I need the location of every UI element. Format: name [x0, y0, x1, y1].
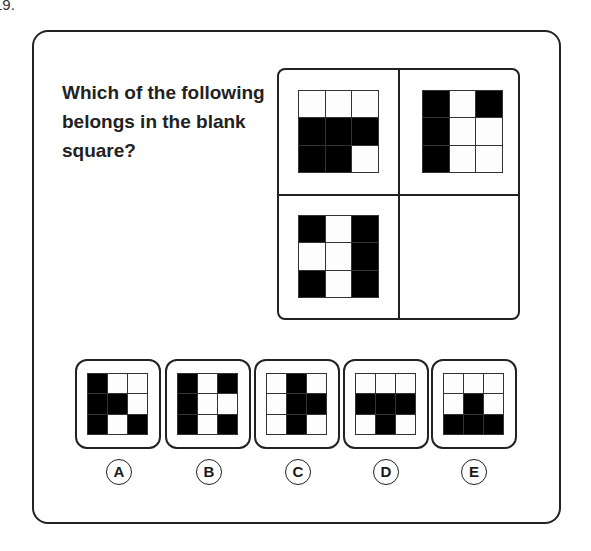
grid-square — [444, 374, 463, 393]
grid-square — [476, 118, 502, 144]
grid-square — [376, 394, 395, 413]
grid-square — [299, 118, 325, 144]
grid-square — [267, 394, 286, 413]
grid-square — [88, 415, 107, 434]
grid-square — [108, 415, 127, 434]
grid-square — [218, 415, 237, 434]
grid-square — [178, 415, 197, 434]
grid-square — [450, 91, 476, 117]
option-c[interactable] — [254, 359, 340, 449]
option-c-pattern — [266, 373, 327, 435]
grid-square — [287, 394, 306, 413]
grid-square — [198, 374, 217, 393]
grid-square — [299, 271, 325, 297]
grid-square — [198, 415, 217, 434]
grid-square — [444, 394, 463, 413]
grid-square — [396, 394, 415, 413]
grid-square — [376, 415, 395, 434]
grid-square — [326, 243, 352, 269]
matrix-cell-bottom-left — [298, 215, 379, 298]
matrix-cell-blank — [400, 196, 520, 320]
grid-square — [267, 415, 286, 434]
grid-square — [484, 415, 503, 434]
grid-square — [450, 118, 476, 144]
grid-square — [423, 146, 449, 172]
grid-square — [352, 118, 378, 144]
grid-square — [356, 394, 375, 413]
grid-square — [396, 374, 415, 393]
grid-square — [326, 216, 352, 242]
grid-square — [484, 394, 503, 413]
grid-square — [464, 374, 483, 393]
grid-square — [396, 415, 415, 434]
grid-square — [299, 243, 325, 269]
option-e-label[interactable]: E — [461, 459, 487, 485]
grid-square — [267, 374, 286, 393]
question-text: Which of the following belongs in the bl… — [62, 78, 272, 165]
matrix-cell-top-left — [298, 90, 379, 173]
option-d-label[interactable]: D — [373, 459, 399, 485]
option-b[interactable] — [165, 359, 251, 449]
grid-square — [307, 394, 326, 413]
option-b-label[interactable]: B — [196, 459, 222, 485]
grid-square — [128, 415, 147, 434]
grid-square — [128, 394, 147, 413]
option-d-pattern — [355, 373, 416, 435]
grid-square — [444, 415, 463, 434]
grid-square — [299, 91, 325, 117]
grid-square — [287, 415, 306, 434]
grid-square — [376, 374, 395, 393]
grid-square — [198, 394, 217, 413]
option-c-label[interactable]: C — [285, 459, 311, 485]
grid-square — [218, 394, 237, 413]
grid-square — [326, 146, 352, 172]
grid-square — [352, 91, 378, 117]
grid-square — [423, 118, 449, 144]
grid-square — [464, 394, 483, 413]
grid-square — [88, 394, 107, 413]
grid-square — [476, 146, 502, 172]
grid-square — [326, 91, 352, 117]
grid-square — [88, 374, 107, 393]
grid-square — [287, 374, 306, 393]
grid-square — [108, 394, 127, 413]
grid-square — [352, 243, 378, 269]
grid-square — [326, 118, 352, 144]
question-number: 19. — [0, 0, 15, 13]
grid-square — [326, 271, 352, 297]
grid-square — [484, 374, 503, 393]
grid-square — [356, 374, 375, 393]
grid-square — [178, 374, 197, 393]
matrix-cell-top-right — [422, 90, 503, 173]
grid-square — [464, 415, 483, 434]
grid-square — [450, 146, 476, 172]
grid-square — [423, 91, 449, 117]
grid-square — [356, 415, 375, 434]
grid-square — [307, 415, 326, 434]
grid-square — [307, 374, 326, 393]
grid-square — [108, 374, 127, 393]
grid-square — [299, 146, 325, 172]
option-a-pattern — [87, 373, 148, 435]
option-e[interactable] — [431, 359, 517, 449]
grid-square — [128, 374, 147, 393]
option-e-pattern — [443, 373, 504, 435]
option-a-label[interactable]: A — [106, 459, 132, 485]
grid-square — [352, 146, 378, 172]
grid-square — [352, 271, 378, 297]
grid-square — [352, 216, 378, 242]
option-a[interactable] — [75, 359, 161, 449]
puzzle-matrix — [277, 68, 520, 320]
option-d[interactable] — [343, 359, 429, 449]
option-b-pattern — [177, 373, 238, 435]
grid-square — [218, 374, 237, 393]
grid-square — [178, 394, 197, 413]
grid-square — [299, 216, 325, 242]
grid-square — [476, 91, 502, 117]
